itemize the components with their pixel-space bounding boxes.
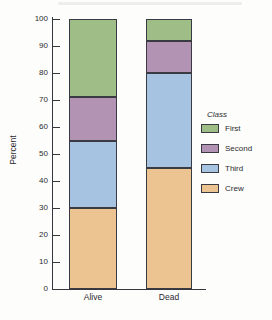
y-tick-label: 70: [20, 95, 48, 105]
y-axis-label: Percent: [7, 120, 19, 180]
bar-segment-crew-dead: [146, 168, 192, 289]
bar-segment-third-alive: [69, 141, 117, 208]
x-axis-line: [52, 289, 206, 290]
legend-title: Class: [207, 110, 257, 120]
y-tick-label: 100: [20, 14, 48, 24]
legend-swatch-crew: [201, 184, 219, 193]
bar-segment-second-alive: [69, 97, 117, 141]
bar-segment-third-dead: [146, 73, 192, 168]
y-tick-mark: [53, 46, 60, 47]
legend-swatch-third: [201, 164, 219, 173]
bar-segment-first-dead: [146, 19, 192, 41]
x-category-label-alive: Alive: [71, 292, 115, 303]
y-tick-label: 0: [20, 284, 48, 294]
y-tick-label: 90: [20, 41, 48, 51]
legend-swatch-first: [201, 124, 219, 133]
y-tick-mark: [53, 208, 60, 209]
legend: Class FirstSecondThirdCrew: [201, 110, 267, 206]
y-tick-mark: [53, 289, 60, 290]
y-tick-label: 80: [20, 68, 48, 78]
x-category-label-dead: Dead: [147, 292, 191, 303]
scan-artifact: [58, 2, 242, 5]
y-tick-label: 20: [20, 230, 48, 240]
y-tick-mark: [53, 19, 60, 20]
y-tick-label: 50: [20, 149, 48, 159]
y-tick-mark: [53, 127, 60, 128]
bar-segment-second-dead: [146, 41, 192, 73]
legend-label-third: Third: [225, 164, 267, 174]
y-tick-mark: [53, 100, 60, 101]
legend-label-crew: Crew: [225, 184, 267, 194]
y-tick-mark: [53, 73, 60, 74]
legend-swatch-second: [201, 144, 219, 153]
y-tick-label: 60: [20, 122, 48, 132]
y-tick-mark: [53, 181, 60, 182]
legend-label-first: First: [225, 124, 267, 134]
y-tick-label: 30: [20, 203, 48, 213]
y-axis-line: [52, 17, 53, 289]
legend-label-second: Second: [225, 144, 267, 154]
y-tick-mark: [53, 154, 60, 155]
y-tick-label: 10: [20, 257, 48, 267]
bar-segment-first-alive: [69, 19, 117, 97]
y-tick-mark: [53, 262, 60, 263]
bar-segment-crew-alive: [69, 208, 117, 289]
stacked-bar-chart-figure: Percent 0102030405060708090100 AliveDead…: [0, 0, 272, 320]
y-tick-label: 40: [20, 176, 48, 186]
y-tick-mark: [53, 235, 60, 236]
